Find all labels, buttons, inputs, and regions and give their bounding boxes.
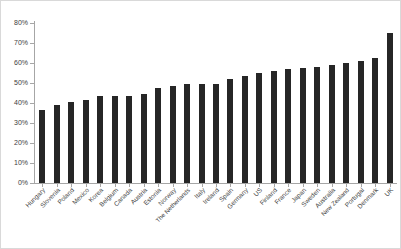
bar[interactable] xyxy=(314,67,320,183)
bar-slot xyxy=(194,23,208,183)
bar-slot xyxy=(35,23,49,183)
bar-slot xyxy=(267,23,281,183)
bar-chart: 0%10%20%30%40%50%60%70%80% HungarySloven… xyxy=(0,0,401,249)
y-tick xyxy=(30,163,34,164)
bar[interactable] xyxy=(68,102,74,183)
bar[interactable] xyxy=(387,33,393,183)
bar[interactable] xyxy=(126,96,132,183)
bar-slot xyxy=(238,23,252,183)
y-axis-tick-label: 50% xyxy=(2,79,28,86)
bar-slot xyxy=(281,23,295,183)
bar[interactable] xyxy=(227,79,233,183)
plot-area xyxy=(35,23,397,183)
bar-slot xyxy=(310,23,324,183)
bar[interactable] xyxy=(271,71,277,183)
bar-slot xyxy=(136,23,150,183)
y-tick xyxy=(30,103,34,104)
bar[interactable] xyxy=(112,96,118,183)
bar-slot xyxy=(151,23,165,183)
bar[interactable] xyxy=(329,65,335,183)
bar-slot xyxy=(325,23,339,183)
bar-slot xyxy=(354,23,368,183)
bar-slot xyxy=(383,23,397,183)
y-axis-tick-label: 20% xyxy=(2,139,28,146)
y-axis-tick-label: 80% xyxy=(2,19,28,26)
y-axis-tick-label: 40% xyxy=(2,99,28,106)
bar-slot xyxy=(78,23,92,183)
bar[interactable] xyxy=(358,61,364,183)
bar-slot xyxy=(223,23,237,183)
bar-slot xyxy=(165,23,179,183)
x-axis-labels: HungarySloveniaPolandMexicoKoreaBelgiumC… xyxy=(35,187,397,249)
y-tick xyxy=(30,63,34,64)
bar[interactable] xyxy=(343,63,349,183)
bar-slot xyxy=(209,23,223,183)
y-tick xyxy=(30,23,34,24)
bar-slot xyxy=(180,23,194,183)
y-axis-tick-label: 60% xyxy=(2,59,28,66)
bar-slot xyxy=(93,23,107,183)
bar-slot xyxy=(122,23,136,183)
bar[interactable] xyxy=(83,100,89,183)
bar-slot xyxy=(252,23,266,183)
bar[interactable] xyxy=(372,58,378,183)
bar[interactable] xyxy=(97,96,103,183)
bar[interactable] xyxy=(300,68,306,183)
bar-slot xyxy=(296,23,310,183)
bar-slot xyxy=(107,23,121,183)
bar[interactable] xyxy=(170,86,176,183)
y-tick xyxy=(30,143,34,144)
y-tick xyxy=(30,123,34,124)
bar-slot xyxy=(368,23,382,183)
y-tick xyxy=(30,43,34,44)
y-axis-tick-label: 30% xyxy=(2,119,28,126)
bar-slot xyxy=(339,23,353,183)
bar[interactable] xyxy=(242,76,248,183)
bar[interactable] xyxy=(54,105,60,183)
y-axis-tick-label: 0% xyxy=(2,179,28,186)
y-tick xyxy=(30,83,34,84)
bar-slot xyxy=(49,23,63,183)
bar[interactable] xyxy=(184,84,190,183)
y-axis-tick-label: 70% xyxy=(2,39,28,46)
bar[interactable] xyxy=(199,84,205,183)
bar[interactable] xyxy=(155,88,161,183)
y-tick xyxy=(30,183,34,184)
bar[interactable] xyxy=(213,84,219,183)
y-axis-tick-label: 10% xyxy=(2,159,28,166)
bar[interactable] xyxy=(256,73,262,183)
bar[interactable] xyxy=(39,110,45,183)
bar[interactable] xyxy=(141,94,147,183)
bar[interactable] xyxy=(285,69,291,183)
bar-slot xyxy=(64,23,78,183)
